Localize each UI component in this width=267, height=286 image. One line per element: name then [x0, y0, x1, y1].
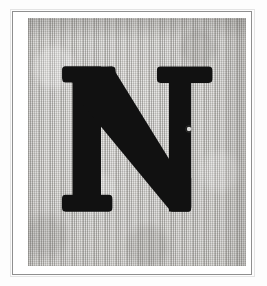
letter-alt-text: Capital letter N — [0, 0, 1, 1]
plate-gray-field — [28, 18, 246, 266]
letter-layer — [28, 18, 246, 266]
letter-n-glyph — [28, 18, 246, 266]
white-speck-defect — [187, 127, 191, 131]
scanned-page: Capital letter N — [0, 0, 267, 286]
glyph-ink-shape — [62, 67, 212, 212]
